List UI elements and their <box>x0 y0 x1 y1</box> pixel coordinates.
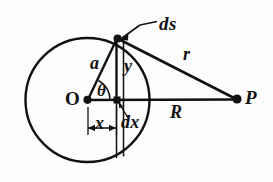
label-R: R <box>170 103 182 121</box>
geometry-figure: ds r R a y θ x dx O P <box>0 0 273 182</box>
label-a: a <box>90 54 99 72</box>
point-marker-P <box>232 94 241 103</box>
point-marker-O <box>83 96 91 104</box>
label-x: x <box>95 114 104 132</box>
point-marker-S <box>114 34 122 42</box>
label-dx: dx <box>121 113 140 131</box>
label-y: y <box>124 57 132 75</box>
label-theta: θ <box>97 82 106 99</box>
label-P: P <box>245 88 257 107</box>
dimension-arrow-left <box>88 125 95 131</box>
label-O: O <box>65 89 80 108</box>
leader-line-ds-slant <box>122 25 140 38</box>
label-r: r <box>183 45 190 63</box>
diagram-canvas <box>0 0 273 182</box>
distance-line-r <box>118 39 237 100</box>
leader-line-ds <box>140 22 157 26</box>
label-ds: ds <box>159 14 177 33</box>
dimension-arrow-right <box>109 125 116 131</box>
point-marker-foot <box>114 97 121 104</box>
